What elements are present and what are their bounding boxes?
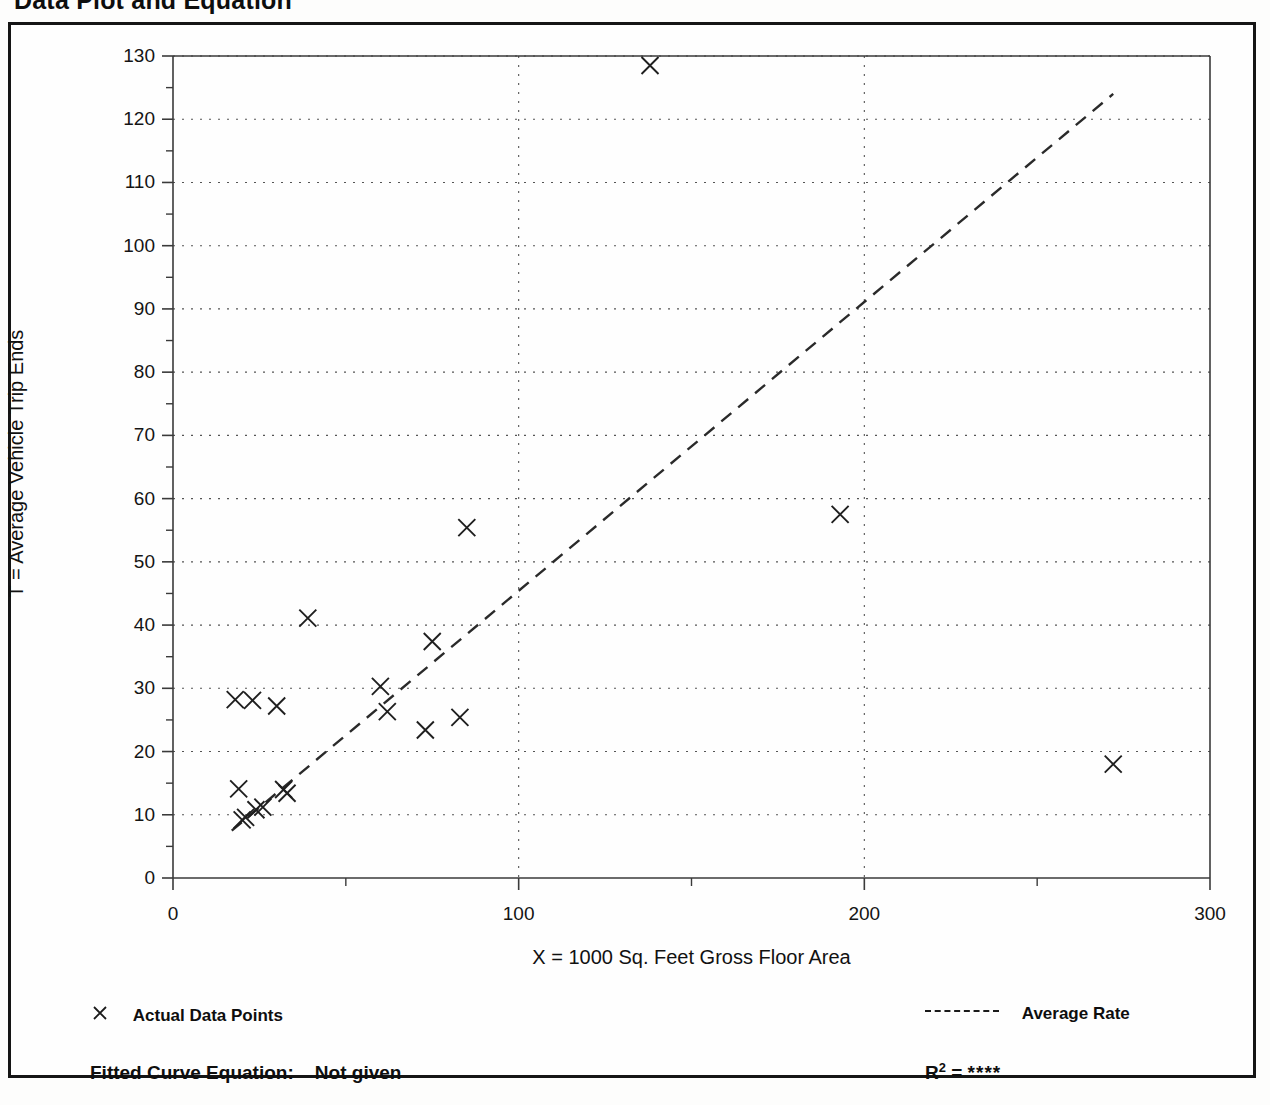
x-tick-label: 200 [848, 903, 880, 925]
y-tick-label: 40 [77, 614, 155, 636]
y-tick-label: 120 [77, 108, 155, 130]
legend-average-rate-label: Average Rate [1022, 1004, 1130, 1023]
fitted-curve-equation: Fitted Curve Equation: Not given [90, 1062, 401, 1084]
legend-average-rate: Average Rate [925, 1003, 1130, 1024]
page-title: Data Plot and Equation [14, 0, 292, 15]
y-tick-label: 10 [77, 804, 155, 826]
dashed-line-icon [925, 1010, 999, 1012]
x-axis-label: X = 1000 Sq. Feet Gross Floor Area [173, 946, 1210, 969]
r-squared-label: R [925, 1062, 939, 1083]
r-squared-exponent: 2 [939, 1060, 946, 1075]
legend-actual-data-points-label: Actual Data Points [133, 1006, 283, 1025]
y-axis-label: T = Average Vehicle Trip Ends [5, 234, 28, 694]
y-tick-label: 110 [77, 171, 155, 193]
y-tick-label: 80 [77, 361, 155, 383]
x-marker-icon [90, 1003, 110, 1028]
x-tick-label: 100 [503, 903, 535, 925]
y-tick-label: 100 [77, 235, 155, 257]
y-tick-label: 90 [77, 298, 155, 320]
fitted-curve-equation-label: Fitted Curve Equation: [90, 1062, 294, 1083]
x-tick-label: 300 [1194, 903, 1226, 925]
y-tick-label: 30 [77, 677, 155, 699]
r-squared-value: R2 = **** [925, 1060, 1001, 1084]
y-tick-label: 20 [77, 741, 155, 763]
y-tick-label: 130 [77, 45, 155, 67]
fitted-curve-equation-value: Not given [315, 1062, 402, 1083]
r-squared-stars: **** [968, 1062, 1002, 1083]
chart-frame [8, 22, 1256, 1078]
y-tick-label: 0 [77, 867, 155, 889]
y-tick-label: 70 [77, 424, 155, 446]
legend-actual-data-points: Actual Data Points [90, 1003, 283, 1028]
y-tick-label: 50 [77, 551, 155, 573]
r-squared-equals: = [951, 1062, 962, 1083]
x-tick-label: 0 [168, 903, 179, 925]
y-tick-label: 60 [77, 488, 155, 510]
